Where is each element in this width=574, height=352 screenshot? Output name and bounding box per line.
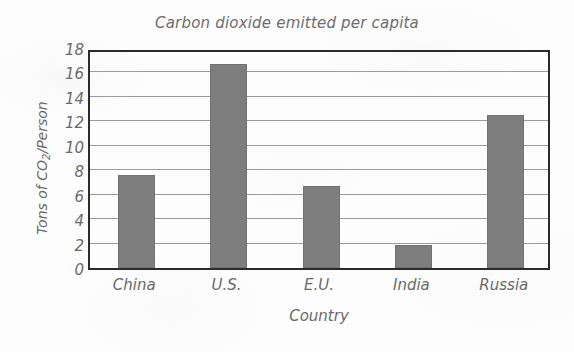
x-axis-tick-labels: ChinaU.S.E.U.IndiaRussia: [88, 276, 550, 300]
plot-area: [88, 50, 550, 270]
bar-u-s: [210, 64, 247, 268]
x-axis-title: Country: [88, 307, 550, 325]
y-axis-tick-label: 8: [74, 163, 84, 181]
x-axis-tick-label: E.U.: [304, 276, 334, 294]
y-axis-tick-label: 14: [65, 90, 84, 108]
y-axis-tick-label: 18: [65, 41, 84, 59]
y-axis-tick-label: 12: [65, 114, 84, 132]
x-axis-tick-label: China: [113, 276, 156, 294]
bar-india: [395, 245, 432, 268]
bar-china: [118, 175, 155, 268]
x-axis-tick-label: India: [393, 276, 430, 294]
x-axis-tick-label: U.S.: [212, 276, 242, 294]
y-axis-tick-label: 2: [74, 237, 84, 255]
bar-e-u: [303, 186, 340, 268]
chart-title: Carbon dioxide emitted per capita: [0, 14, 574, 32]
y-axis-tick-label: 16: [65, 65, 84, 83]
bar-russia: [487, 115, 524, 268]
y-axis-tick-label: 10: [65, 139, 84, 157]
y-axis-tick-labels: 024681012141618: [48, 50, 84, 270]
chart-figure: Carbon dioxide emitted per capita Tons o…: [0, 0, 574, 352]
y-axis-tick-label: 4: [74, 212, 84, 230]
y-axis-tick-label: 0: [74, 261, 84, 279]
x-axis-tick-label: Russia: [479, 276, 528, 294]
bars-layer: [90, 52, 548, 268]
y-axis-tick-label: 6: [74, 188, 84, 206]
